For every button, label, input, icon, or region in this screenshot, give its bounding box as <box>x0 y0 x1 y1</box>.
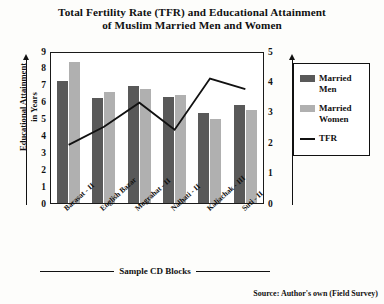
legend-swatch-tfr <box>300 138 315 140</box>
axis-tick-label: 3 <box>268 108 282 117</box>
legend-item-married-women: Married Women <box>300 103 369 124</box>
axis-tick-label: 0 <box>32 200 46 209</box>
legend-item-tfr: TFR <box>300 133 369 144</box>
axis-tick-label: 9 <box>32 48 46 57</box>
bar-men <box>57 81 68 203</box>
legend-swatch-married-men <box>300 75 315 82</box>
legend-swatch-married-women <box>300 105 315 112</box>
axis-tick-label: 2 <box>268 139 282 148</box>
axis-tick-label: 1 <box>268 169 282 178</box>
x-caption-rule-right <box>196 271 270 272</box>
legend-label-married-women-line-2: Women <box>319 114 349 124</box>
axis-tick-label: 0 <box>268 200 282 209</box>
axis-tick-label: 4 <box>268 78 282 87</box>
legend-label-married-men-line-2: Men <box>319 84 337 94</box>
bar-women <box>69 62 80 203</box>
axis-tick-label: 6 <box>32 98 46 107</box>
axis-tick-label: 8 <box>32 64 46 73</box>
legend-label-married-men-line-1: Married <box>319 73 351 83</box>
left-axis-label-line-1: Educational Attainment <box>18 32 29 182</box>
chart-legend: Married Men Married Women TFR <box>293 63 370 156</box>
x-axis-caption-text: Sample CD Blocks <box>119 266 191 276</box>
axis-tick-label: 5 <box>32 115 46 124</box>
bar-group <box>51 53 86 203</box>
axis-tick-label: 5 <box>268 48 282 57</box>
axis-tick-label: 2 <box>32 166 46 175</box>
chart-title: Total Fertility Rate (TFR) and Education… <box>0 6 384 32</box>
bar-groups <box>51 53 263 203</box>
legend-label-married-women-line-1: Married <box>319 103 351 113</box>
bar-women <box>140 89 151 203</box>
bar-women <box>175 95 186 203</box>
axis-tick-label: 3 <box>32 149 46 158</box>
axis-tick-label: 1 <box>32 183 46 192</box>
bar-women <box>210 119 221 203</box>
chart-title-line-1: Total Fertility Rate (TFR) and Education… <box>0 6 384 19</box>
bar-women <box>246 110 257 203</box>
chart-title-line-2: of Muslim Married Men and Women <box>0 19 384 32</box>
bar-group <box>86 53 121 203</box>
x-axis-category-labels: Barasat - IIEnglish BazarMograhat - IINa… <box>50 206 264 264</box>
bar-group <box>192 53 227 203</box>
legend-label-tfr: TFR <box>319 133 337 144</box>
source-note: Source: Author's own (Field Survey) <box>253 289 378 298</box>
chart-figure: Total Fertility Rate (TFR) and Education… <box>0 0 384 304</box>
x-caption-rule-left <box>40 271 114 272</box>
bar-women <box>104 92 115 203</box>
x-axis-caption: Sample CD Blocks <box>40 266 270 276</box>
legend-label-married-women: Married Women <box>319 103 369 124</box>
axis-tick-label: 7 <box>32 81 46 90</box>
axis-tick-label: 4 <box>32 132 46 141</box>
legend-item-married-men: Married Men <box>300 73 369 94</box>
legend-label-married-men: Married Men <box>319 73 369 94</box>
